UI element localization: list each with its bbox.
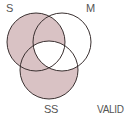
label-s: S	[6, 2, 13, 14]
verdict-label: VALID	[97, 104, 124, 115]
label-ss: SS	[44, 103, 58, 115]
label-m: M	[86, 2, 95, 14]
